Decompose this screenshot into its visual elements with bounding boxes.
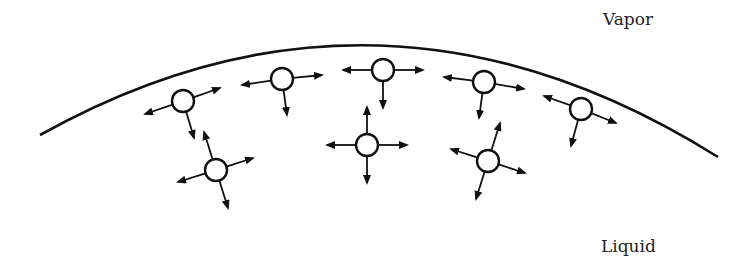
surface-molecule [444, 71, 524, 118]
liquid-label: Liquid [601, 236, 656, 256]
surface-molecule [343, 59, 423, 108]
bulk-molecule [327, 107, 407, 183]
molecule-circle-icon [473, 71, 495, 93]
force-arrow-icon [226, 158, 253, 167]
molecule-circle-icon [356, 134, 378, 156]
surface-molecule [145, 88, 220, 138]
force-arrow-icon [444, 77, 473, 81]
force-arrow-icon [591, 113, 616, 123]
force-arrow-icon [451, 149, 478, 158]
vapor-label: Vapor [603, 9, 653, 29]
force-arrow-icon [544, 96, 571, 105]
force-arrow-icon [495, 84, 524, 89]
molecule-circle-icon [271, 68, 293, 90]
bulk-molecule [178, 132, 253, 208]
liquid-vapor-interface-diagram [0, 0, 755, 275]
force-arrow-icon [284, 90, 287, 115]
force-arrow-icon [498, 164, 525, 173]
force-arrow-icon [204, 132, 213, 160]
force-arrow-icon [293, 75, 322, 78]
molecule-circle-icon [372, 59, 394, 81]
force-arrow-icon [193, 88, 220, 97]
force-arrow-icon [491, 123, 500, 151]
force-arrow-icon [178, 173, 206, 182]
surface-molecules [145, 59, 616, 146]
force-arrow-icon [186, 112, 194, 138]
force-arrow-icon [479, 93, 482, 118]
bulk-molecule [451, 123, 525, 199]
surface-molecule [242, 68, 322, 115]
force-arrow-icon [476, 171, 485, 199]
bulk-molecules [178, 107, 525, 208]
molecule-circle-icon [172, 90, 194, 112]
force-arrow-icon [242, 81, 271, 85]
force-arrow-icon [145, 105, 173, 114]
molecule-circle-icon [477, 150, 499, 172]
molecule-circle-icon [570, 98, 592, 120]
force-arrow-icon [219, 180, 228, 208]
force-arrow-icon [571, 120, 578, 146]
molecule-circle-icon [205, 159, 227, 181]
surface-molecule [544, 96, 616, 146]
